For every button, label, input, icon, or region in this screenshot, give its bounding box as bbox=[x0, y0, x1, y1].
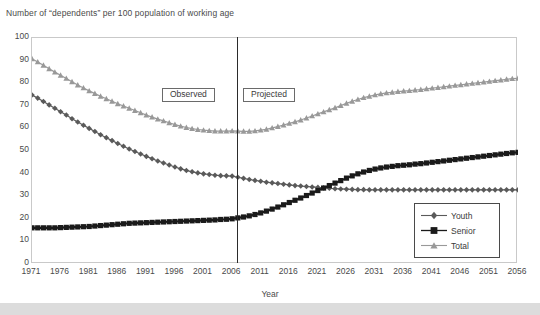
data-point-marker bbox=[69, 116, 75, 122]
data-point-marker bbox=[195, 170, 201, 176]
data-point-marker bbox=[298, 183, 304, 189]
observed-projected-divider bbox=[237, 37, 238, 263]
data-point-marker bbox=[47, 225, 52, 230]
legend-label-senior: Senior bbox=[451, 226, 476, 236]
data-point-marker bbox=[287, 200, 292, 205]
data-point-marker bbox=[378, 187, 384, 193]
data-point-marker bbox=[372, 187, 378, 193]
data-point-marker bbox=[447, 187, 453, 193]
data-point-marker bbox=[492, 187, 498, 193]
data-point-marker bbox=[75, 224, 80, 229]
x-axis-tick-label: 1976 bbox=[50, 266, 69, 276]
x-axis-tick-label: 2001 bbox=[193, 266, 212, 276]
data-point-marker bbox=[212, 172, 218, 178]
x-axis-tick-label: 1971 bbox=[22, 266, 41, 276]
data-point-marker bbox=[98, 223, 103, 228]
data-point-marker bbox=[189, 218, 194, 223]
data-point-marker bbox=[178, 219, 183, 224]
data-point-marker bbox=[515, 187, 518, 193]
data-point-marker bbox=[35, 95, 41, 101]
data-point-marker bbox=[64, 225, 69, 230]
data-point-marker bbox=[184, 218, 189, 223]
data-point-marker bbox=[418, 161, 423, 166]
legend-item-total[interactable]: Total bbox=[420, 238, 494, 253]
data-point-marker bbox=[224, 217, 229, 222]
data-point-marker bbox=[121, 143, 127, 149]
data-point-marker bbox=[298, 195, 303, 200]
data-point-marker bbox=[338, 178, 343, 183]
data-point-marker bbox=[224, 173, 230, 179]
x-axis-tick-label: 2021 bbox=[307, 266, 326, 276]
data-point-marker bbox=[81, 122, 87, 128]
data-point-marker bbox=[292, 183, 298, 189]
data-point-marker bbox=[87, 224, 92, 229]
data-point-marker bbox=[252, 178, 258, 184]
data-point-marker bbox=[281, 202, 286, 207]
data-point-marker bbox=[269, 180, 275, 186]
data-point-marker bbox=[46, 66, 52, 71]
data-point-marker bbox=[475, 154, 480, 159]
data-point-marker bbox=[515, 150, 518, 155]
data-point-marker bbox=[361, 169, 366, 174]
data-point-marker bbox=[292, 198, 297, 203]
annotation-observed: Observed bbox=[162, 88, 215, 102]
data-point-marker bbox=[63, 75, 69, 80]
data-point-marker bbox=[109, 222, 114, 227]
data-point-marker bbox=[509, 187, 515, 193]
data-point-marker bbox=[498, 152, 503, 157]
data-point-marker bbox=[338, 186, 344, 192]
legend-marker-triangle-icon bbox=[420, 240, 448, 251]
data-point-marker bbox=[86, 126, 92, 132]
data-point-marker bbox=[321, 185, 326, 190]
data-point-marker bbox=[132, 149, 138, 155]
data-point-marker bbox=[504, 151, 509, 156]
data-point-marker bbox=[161, 219, 166, 224]
data-point-marker bbox=[41, 225, 46, 230]
data-point-marker bbox=[441, 158, 446, 163]
data-point-marker bbox=[35, 59, 41, 64]
data-point-marker bbox=[230, 216, 235, 221]
data-point-marker bbox=[430, 160, 435, 165]
data-point-marker bbox=[286, 182, 292, 188]
data-point-marker bbox=[395, 163, 400, 168]
data-point-marker bbox=[493, 152, 498, 157]
annotation-projected: Projected bbox=[243, 88, 295, 102]
data-point-marker bbox=[389, 187, 395, 193]
x-axis-tick-label: 1981 bbox=[79, 266, 98, 276]
data-point-marker bbox=[464, 187, 470, 193]
data-point-marker bbox=[458, 187, 464, 193]
data-point-marker bbox=[378, 165, 383, 170]
data-point-marker bbox=[281, 181, 287, 187]
data-point-marker bbox=[361, 187, 367, 193]
x-axis-tick-label: 2046 bbox=[450, 266, 469, 276]
data-point-marker bbox=[104, 223, 109, 228]
data-point-marker bbox=[275, 204, 280, 209]
legend-item-youth[interactable]: Youth bbox=[420, 208, 494, 223]
data-point-marker bbox=[115, 222, 120, 227]
data-point-marker bbox=[41, 99, 47, 105]
data-point-marker bbox=[81, 85, 87, 90]
data-point-marker bbox=[332, 180, 337, 185]
data-point-marker bbox=[218, 217, 223, 222]
data-point-marker bbox=[189, 169, 195, 175]
data-point-marker bbox=[435, 187, 441, 193]
x-axis-tick-label: 2011 bbox=[251, 266, 269, 276]
data-point-marker bbox=[75, 119, 81, 125]
data-point-marker bbox=[138, 220, 143, 225]
x-axis-tick-label: 2006 bbox=[222, 266, 241, 276]
data-point-marker bbox=[470, 155, 475, 160]
data-point-marker bbox=[121, 221, 126, 226]
legend-item-senior[interactable]: Senior bbox=[420, 223, 494, 238]
x-axis-tick-label: 2056 bbox=[508, 266, 527, 276]
data-point-marker bbox=[355, 187, 361, 193]
data-point-marker bbox=[412, 162, 417, 167]
data-point-marker bbox=[395, 187, 401, 193]
data-point-marker bbox=[424, 187, 430, 193]
x-axis-tick-label: 1996 bbox=[164, 266, 183, 276]
data-point-marker bbox=[264, 179, 270, 185]
x-axis-tick-label: 1991 bbox=[136, 266, 155, 276]
data-point-marker bbox=[464, 156, 469, 161]
data-point-marker bbox=[407, 187, 413, 193]
data-point-marker bbox=[327, 183, 332, 188]
data-point-marker bbox=[86, 88, 92, 93]
